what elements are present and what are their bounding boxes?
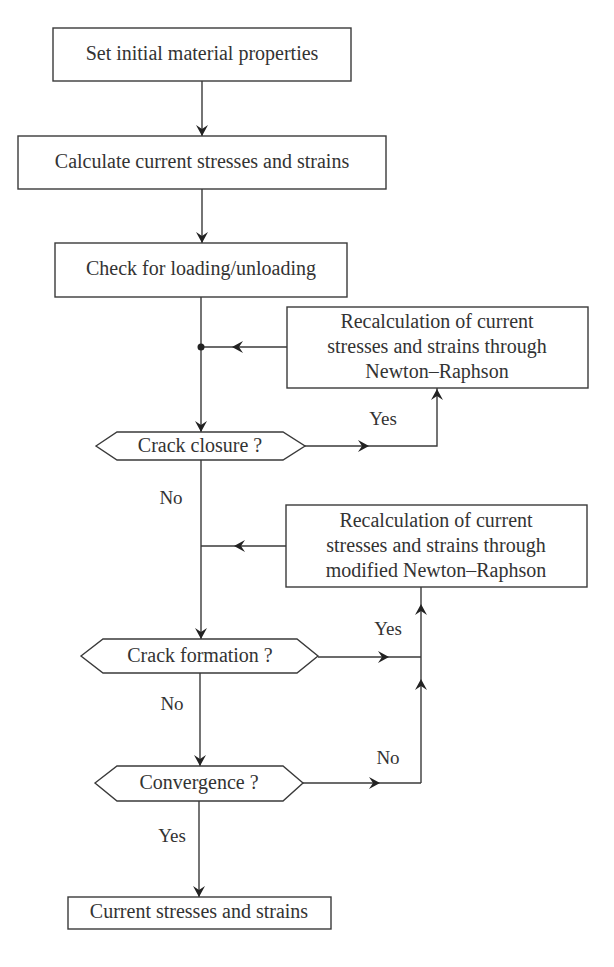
decision-crack-formation: Crack formation ? <box>81 639 318 673</box>
decision-crack-closure: Crack closure ? <box>96 432 305 460</box>
edge-label-convergence-no: No <box>376 747 399 768</box>
node-label: Set initial material properties <box>86 42 319 65</box>
node-label-line: stresses and strains through <box>327 335 546 358</box>
decision-label: Crack formation ? <box>127 644 273 666</box>
node-label: Calculate current stresses and strains <box>55 150 350 172</box>
edge-label-formation-no: No <box>160 693 183 714</box>
node-label: Check for loading/unloading <box>86 257 316 280</box>
node-recalc-newton-raphson: Recalculation of current stresses and st… <box>287 307 588 388</box>
node-label-line: Recalculation of current <box>340 310 534 332</box>
edge-label-closure-no: No <box>159 487 182 508</box>
flowchart-diagram: Set initial material properties Calculat… <box>0 0 614 967</box>
edge-label-convergence-yes: Yes <box>158 825 186 846</box>
node-current-final: Current stresses and strains <box>68 897 331 929</box>
node-check-loading: Check for loading/unloading <box>55 243 347 297</box>
edge-label-closure-yes: Yes <box>369 408 397 429</box>
junction-dot <box>198 344 205 351</box>
node-set-initial: Set initial material properties <box>53 28 351 81</box>
node-label: Current stresses and strains <box>90 900 309 922</box>
node-label-line: Recalculation of current <box>339 509 533 531</box>
node-label-line: stresses and strains through <box>326 534 545 557</box>
decision-label: Crack closure ? <box>138 434 263 456</box>
decision-convergence: Convergence ? <box>95 766 303 801</box>
node-label-line: Newton–Raphson <box>365 360 508 383</box>
node-recalc-modified-newton-raphson: Recalculation of current stresses and st… <box>286 505 587 587</box>
node-label-line: modified Newton–Raphson <box>326 559 547 582</box>
decision-label: Convergence ? <box>139 771 258 794</box>
node-calc-current: Calculate current stresses and strains <box>18 136 386 189</box>
edge-label-formation-yes: Yes <box>374 618 402 639</box>
